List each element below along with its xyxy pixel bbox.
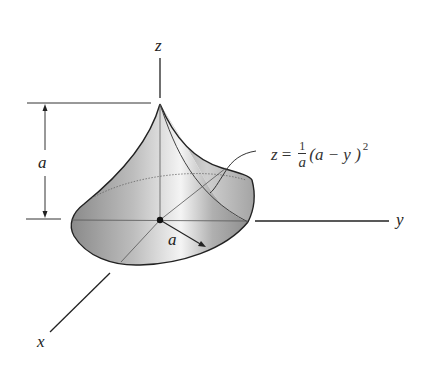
fraction-numerator: 1	[298, 140, 306, 154]
arrowhead-down-icon	[43, 211, 48, 218]
height-dimension-label: a	[38, 154, 47, 171]
y-axis-label: y	[396, 211, 404, 228]
origin-point	[157, 217, 163, 223]
equation-lhs: z	[271, 145, 278, 165]
radius-dimension-label: a	[168, 231, 177, 248]
equation-exponent: 2	[363, 140, 369, 152]
figure: z y x a a z = 1 a (a − y ) 2	[0, 0, 423, 375]
surface-equation: z = 1 a (a − y ) 2	[271, 140, 368, 170]
x-axis-label: x	[37, 333, 45, 350]
arrowhead-up-icon	[43, 104, 48, 111]
z-axis-label: z	[155, 37, 162, 54]
fraction-denominator: a	[298, 154, 306, 170]
equation-equals: =	[282, 145, 292, 165]
equation-body: (a − y )	[309, 145, 361, 165]
equation-fraction: 1 a	[298, 140, 306, 170]
surface-diagram	[0, 0, 423, 375]
x-axis	[50, 273, 110, 332]
